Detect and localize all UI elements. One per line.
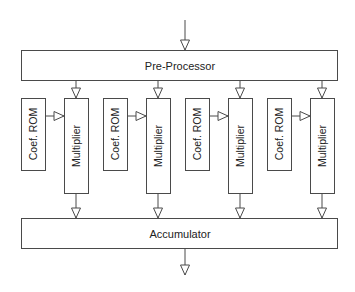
input-arrow (181, 20, 190, 50)
output-arrow (181, 249, 190, 276)
preprocessor-to-multiplier-arrow (154, 88, 163, 98)
multiplier-to-accumulator-arrow (318, 208, 327, 218)
coef-rom-label: Coef. ROM (273, 108, 285, 161)
stage-4: Coef. ROM Multiplier (268, 80, 335, 218)
multiplier-label: Multiplier (70, 124, 82, 167)
preprocessor-block: Pre-Processor (22, 51, 338, 81)
multiplier-to-accumulator-arrow (236, 208, 245, 218)
rom-to-multiplier-arrow (300, 112, 310, 121)
stage-1: Coef. ROM Multiplier (22, 80, 89, 218)
rom-to-multiplier-arrow (218, 112, 228, 121)
accumulator-block: Accumulator (22, 219, 338, 249)
rom-to-multiplier-arrow (54, 112, 64, 121)
preprocessor-label: Pre-Processor (145, 60, 216, 72)
rom-to-multiplier-arrow (136, 112, 146, 121)
preprocessor-to-multiplier-arrow (236, 88, 245, 98)
multiplier-label: Multiplier (152, 124, 164, 167)
accumulator-label: Accumulator (149, 228, 210, 240)
coef-rom-label: Coef. ROM (191, 108, 203, 161)
multiplier-to-accumulator-arrow (154, 208, 163, 218)
coef-rom-label: Coef. ROM (109, 108, 121, 161)
block-diagram: Pre-Processor Coef. ROM Multiplier Coef.… (0, 0, 355, 292)
coef-rom-label: Coef. ROM (27, 108, 39, 161)
multiplier-label: Multiplier (234, 124, 246, 167)
stage-2: Coef. ROM Multiplier (104, 80, 171, 218)
preprocessor-to-multiplier-arrow (318, 88, 327, 98)
multiplier-to-accumulator-arrow (72, 208, 81, 218)
multiplier-label: Multiplier (316, 124, 328, 167)
stage-3: Coef. ROM Multiplier (186, 80, 253, 218)
preprocessor-to-multiplier-arrow (72, 88, 81, 98)
